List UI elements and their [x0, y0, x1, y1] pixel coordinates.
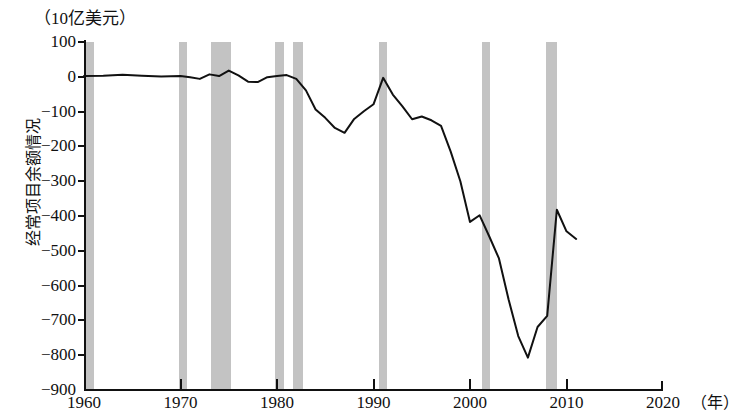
y-axis-tick-label: −100 [0, 103, 76, 120]
y-axis-tick-label: −400 [0, 207, 76, 224]
x-axis-tick-label: 1960 [44, 392, 124, 414]
y-axis-tick-label-text: −100 [4, 103, 76, 120]
x-axis-tick-label: 2010 [527, 392, 607, 414]
y-axis-tick-label: −800 [0, 346, 76, 363]
y-axis-tick-label-text: −300 [4, 172, 76, 189]
plot-area [84, 42, 663, 390]
x-axis-tick [180, 379, 182, 390]
x-axis-tick-label-text: 1990 [334, 392, 414, 414]
y-axis-tick [78, 250, 86, 252]
x-axis-tick-label: 1970 [141, 392, 221, 414]
y-axis-tick [78, 41, 86, 43]
y-axis-tick-label-text: −800 [4, 346, 76, 363]
y-axis-tick [78, 180, 86, 182]
y-axis-tick-label: −300 [0, 172, 76, 189]
x-axis-tick-label-text: 2000 [430, 392, 510, 414]
y-axis-tick [78, 76, 86, 78]
y-axis-tick-label-text: −500 [4, 242, 76, 259]
y-axis-tick-label-text: 100 [4, 33, 76, 50]
y-axis-tick-label-text: 0 [4, 68, 76, 85]
y-axis-tick [78, 215, 86, 217]
y-axis-tick-label-text: −600 [4, 277, 76, 294]
y-axis-tick [78, 319, 86, 321]
y-axis-tick-label-text: −700 [4, 311, 76, 328]
y-axis-tick [78, 285, 86, 287]
y-axis-tick-label: 100 [0, 33, 76, 50]
y-axis-unit-label: （10亿美元） [34, 4, 136, 29]
y-axis-tick [78, 145, 86, 147]
x-axis-tick-label-text: 2010 [527, 392, 607, 414]
y-axis-tick-label: −500 [0, 242, 76, 259]
series-line-group [84, 42, 663, 390]
x-axis-tick-label-text: 1960 [44, 392, 124, 414]
y-axis-tick-label-text: −400 [4, 207, 76, 224]
x-axis-tick-label: 1990 [334, 392, 414, 414]
x-axis-tick-label: 1980 [237, 392, 317, 414]
x-axis-end-tick [661, 381, 663, 391]
x-axis-unit-label: （年） [691, 392, 739, 414]
x-axis-tick [469, 379, 471, 390]
x-axis-tick [373, 379, 375, 390]
y-axis-tick-label: −200 [0, 137, 76, 154]
x-axis-tick-label-text: 1980 [237, 392, 317, 414]
y-axis-tick-label: −600 [0, 277, 76, 294]
x-axis-tick-label-text: 1970 [141, 392, 221, 414]
y-axis-tick-label: 0 [0, 68, 76, 85]
current-account-balance-chart: （10亿美元） 经常项目余额情况 1000−100−200−300−400−50… [0, 0, 739, 420]
series-line [84, 71, 576, 358]
y-axis-tick [78, 354, 86, 356]
x-axis-tick [276, 379, 278, 390]
x-axis-tick-label: 2000 [430, 392, 510, 414]
y-axis-tick [78, 111, 86, 113]
y-axis-tick-label-text: −200 [4, 137, 76, 154]
x-axis-tick [566, 379, 568, 390]
y-axis-tick-label: −700 [0, 311, 76, 328]
